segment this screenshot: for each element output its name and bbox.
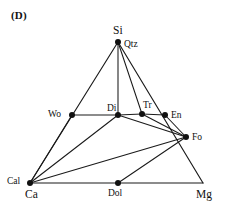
tie-line-cal-di [30,115,118,183]
tie-line-si-tr [118,42,142,114]
phase-label-fo: Fo [192,132,202,142]
tie-line-di-tr [118,114,142,115]
phase-label-di: Di [107,103,117,113]
phase-label-tr: Tr [143,100,152,110]
ternary-diagram-figure: (D) QtzWoDiTrEnFoCalDol SiCaMg [0,0,226,205]
phase-label-wo: Wo [48,109,61,119]
corner-label-si-corner: Si [113,24,123,36]
phase-dot-cal [27,180,33,186]
phase-dot-en [162,112,168,118]
phase-dot-wo [69,112,75,118]
phase-dot-fo [183,134,189,140]
phase-dot-tr [139,111,145,117]
phase-label-qtz: Qtz [124,39,138,49]
triangle-edge-si-mg [118,42,203,183]
ternary-diagram-canvas: QtzWoDiTrEnFoCalDol SiCaMg [0,0,226,205]
tie-line-dol-fo [118,137,186,183]
phase-label-en: En [171,110,182,120]
phase-label-cal: Cal [7,176,21,186]
tie-line-cal-fo [30,137,186,183]
phase-label-dol: Dol [108,188,123,198]
corner-label-mg-corner: Mg [196,188,212,201]
phase-dot-qtz [115,39,121,45]
phase-dot-dol [115,180,121,186]
corner-label-ca-corner: Ca [25,188,38,200]
